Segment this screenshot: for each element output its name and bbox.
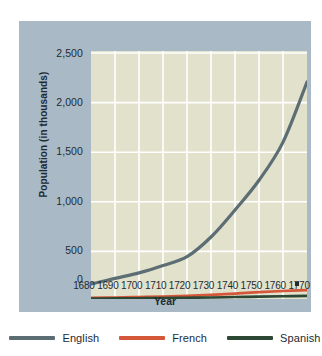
x-tick-label-1690: 1690	[96, 280, 120, 291]
chart-frame: Population (in thousands) 2,500 2,000 1,…	[19, 21, 311, 312]
y-tick-label-1500: 1,500	[27, 146, 83, 156]
series-lines	[91, 82, 307, 298]
x-tick-label-1770: 1770	[287, 280, 311, 291]
plot-svg	[91, 51, 307, 299]
x-tick-label-1700: 1700	[120, 280, 144, 291]
x-tick-label-1730: 1730	[192, 280, 216, 291]
legend-item-french: French	[119, 332, 207, 344]
gridlines-vertical	[115, 51, 283, 299]
series-line-english	[91, 82, 307, 284]
x-tick-label-1760: 1760	[263, 280, 287, 291]
x-tick-label-1680: 1680	[72, 280, 96, 291]
y-tick-label-1000: 1,000	[27, 196, 83, 206]
population-growth-chart: Population (in thousands) 2,500 2,000 1,…	[0, 0, 322, 356]
x-tick-label-1710: 1710	[144, 280, 168, 291]
x-axis-title: Year	[19, 295, 311, 307]
x-tick-label-1750: 1750	[239, 280, 263, 291]
legend-item-english: English	[9, 332, 99, 344]
legend-label-french: French	[172, 332, 207, 344]
y-tick-label-500: 500	[27, 245, 83, 255]
legend-label-english: English	[62, 332, 99, 344]
plot-area	[91, 51, 307, 299]
gridlines-horizontal	[91, 53, 307, 251]
y-tick-label-2500: 2,500	[27, 48, 83, 58]
chart-legend: English French Spanish	[19, 327, 311, 349]
x-tick-label-1740: 1740	[215, 280, 239, 291]
y-tick-label-2000: 2,000	[27, 97, 83, 107]
legend-label-spanish: Spanish	[280, 332, 320, 344]
legend-swatch-english	[9, 336, 55, 340]
legend-item-spanish: Spanish	[227, 332, 320, 344]
legend-swatch-french	[119, 336, 165, 340]
legend-swatch-spanish	[227, 336, 273, 340]
x-tick-label-1720: 1720	[168, 280, 192, 291]
x-axis-tick-row: 1680 1690 1700 1710 1720 1730 1740 1750 …	[72, 280, 311, 294]
